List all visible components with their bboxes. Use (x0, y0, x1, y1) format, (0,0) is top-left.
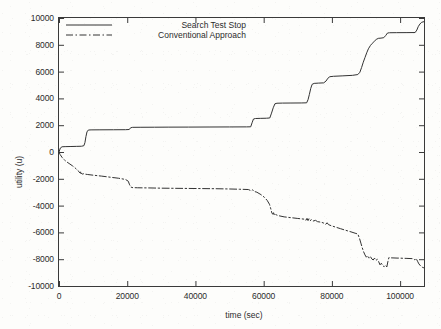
y-axis-title: utility (u) (14, 156, 24, 188)
series-line-0 (59, 22, 424, 152)
y-tick-label: -10000 (8, 281, 54, 291)
axis-ticks (59, 18, 424, 287)
x-tick-label: 0 (29, 291, 89, 301)
y-tick-label: 10000 (8, 13, 54, 23)
y-tick-label: 8000 (8, 40, 54, 50)
x-tick-label: 20000 (97, 291, 157, 301)
legend-label-conventional-approach: Conventional Approach (98, 30, 246, 40)
chart-plot-svg (0, 0, 441, 329)
chart-figure: -10000-8000-6000-4000-200002000400060008… (0, 0, 441, 329)
x-axis-title: time (sec) (184, 310, 304, 320)
data-series-layer (59, 22, 424, 268)
y-tick-label: -6000 (8, 227, 54, 237)
x-tick-label: 80000 (302, 291, 362, 301)
y-tick-label: 6000 (8, 67, 54, 77)
legend-label-search-test-stop: Search Test Stop (118, 20, 246, 30)
y-tick-label: -4000 (8, 201, 54, 211)
y-tick-label: 2000 (8, 120, 54, 130)
y-tick-label: -8000 (8, 254, 54, 264)
series-line-1 (59, 152, 424, 268)
y-tick-label: 4000 (8, 93, 54, 103)
x-tick-label: 60000 (234, 291, 294, 301)
x-tick-label: 100000 (370, 291, 430, 301)
x-tick-label: 40000 (165, 291, 225, 301)
plot-frame (59, 18, 425, 287)
